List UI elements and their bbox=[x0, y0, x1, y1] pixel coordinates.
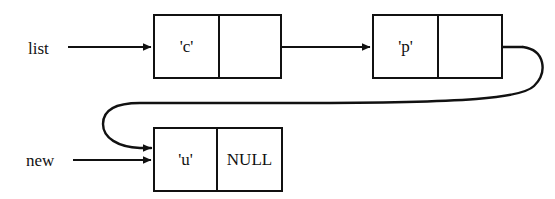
node-c-data-cell: 'c' bbox=[155, 16, 220, 77]
node-p: 'p' bbox=[372, 14, 503, 79]
node-u-data-cell: 'u' bbox=[155, 129, 218, 190]
node-c: 'c' bbox=[153, 14, 282, 79]
node-u-next-cell: NULL bbox=[218, 129, 281, 190]
linked-list-diagram: list new 'c' 'p' 'u' NULL bbox=[0, 0, 555, 199]
pointer-label-new: new bbox=[26, 152, 54, 169]
node-u: 'u' NULL bbox=[153, 127, 283, 192]
pointer-label-list: list bbox=[28, 40, 49, 57]
node-p-next-cell bbox=[439, 16, 501, 77]
node-c-next-cell bbox=[220, 16, 280, 77]
node-p-data-cell: 'p' bbox=[374, 16, 439, 77]
